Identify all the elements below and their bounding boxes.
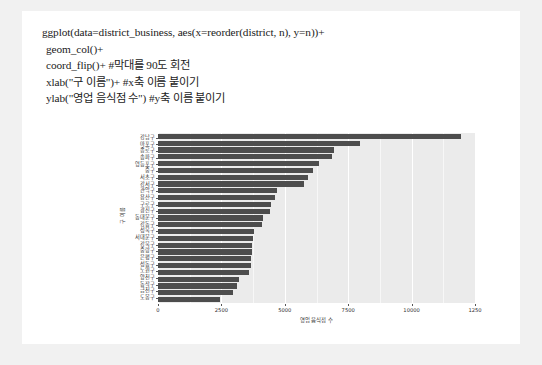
- x-axis-tick: [475, 304, 476, 306]
- bar: [158, 222, 262, 227]
- bar: [158, 283, 237, 288]
- bar: [158, 188, 277, 193]
- y-axis-tick-label: 서대문구: [125, 235, 155, 241]
- bar-row: [158, 243, 475, 248]
- y-axis-tick-label: 은평구: [125, 255, 155, 261]
- code-block: ggplot(data=district_business, aes(x=reo…: [42, 24, 502, 107]
- bar-row: [158, 147, 475, 152]
- bar-row: [158, 161, 475, 166]
- bar-row: [158, 283, 475, 288]
- bar-row: [158, 188, 475, 193]
- bar-row: [158, 175, 475, 180]
- bar-row: [158, 229, 475, 234]
- bar-row: [158, 195, 475, 200]
- bar: [158, 290, 233, 295]
- bar: [158, 243, 252, 248]
- bar-row: [158, 134, 475, 139]
- bar-row: [158, 222, 475, 227]
- code-line-5: ylab("영업 음식점 수") #y축 이름 붙이기: [42, 90, 502, 107]
- bar-row: [158, 215, 475, 220]
- x-axis-tick: [285, 304, 286, 306]
- bar-row: [158, 290, 475, 295]
- bar: [158, 297, 220, 302]
- bar-row: [158, 263, 475, 268]
- bar: [158, 270, 249, 275]
- y-axis-tick-label: 송파구: [125, 155, 155, 161]
- bar-row: [158, 202, 475, 207]
- bar-row: [158, 141, 475, 146]
- code-line-3: coord_flip()+ #막대를 90도 회전: [42, 57, 502, 74]
- bar: [158, 161, 319, 166]
- slide-root: ggplot(data=district_business, aes(x=reo…: [0, 0, 542, 365]
- bar-row: [158, 154, 475, 159]
- x-axis-tick: [412, 304, 413, 306]
- bar-row: [158, 236, 475, 241]
- x-axis-tick-label: 7500: [342, 307, 355, 313]
- bar-series: [158, 133, 475, 303]
- bar-row: [158, 181, 475, 186]
- bar-row: [158, 277, 475, 282]
- bar: [158, 195, 275, 200]
- bar: [158, 263, 251, 268]
- y-axis-tick-label: 양천구: [125, 275, 155, 281]
- bar-row: [158, 249, 475, 254]
- bar: [158, 236, 253, 241]
- x-axis: 0250050007500100001250: [158, 304, 475, 316]
- bar-row: [158, 270, 475, 275]
- bar: [158, 277, 239, 282]
- y-axis-tick-label: 동대문구: [125, 215, 155, 221]
- x-axis-tick: [348, 304, 349, 306]
- bar: [158, 147, 334, 152]
- x-axis-tick-label: 1250: [468, 307, 481, 313]
- content-card: ggplot(data=district_business, aes(x=reo…: [22, 11, 520, 344]
- y-axis-tick-label: 도봉구: [125, 295, 155, 301]
- bar: [158, 154, 332, 159]
- code-line-4: xlab("구 이름")+ #x축 이름 붙이기: [42, 74, 502, 91]
- y-axis-tick-labels: 강남구마포구종로구송파구영등포구중구서초구강서구관악구용산구구로구광진구동대문구…: [125, 135, 155, 301]
- x-axis-tick: [221, 304, 222, 306]
- bar: [158, 249, 252, 254]
- bar: [158, 256, 251, 261]
- bar: [158, 175, 308, 180]
- y-axis-tick-label: 서초구: [125, 175, 155, 181]
- x-axis-tick-label: 2500: [215, 307, 228, 313]
- x-axis-tick-label: 10000: [403, 307, 420, 313]
- code-line-1: ggplot(data=district_business, aes(x=reo…: [42, 24, 502, 41]
- bar: [158, 168, 313, 173]
- x-axis-tick-label: 0: [156, 307, 159, 313]
- plot-panel: [158, 133, 475, 303]
- bar: [158, 209, 270, 214]
- bar-chart: 구 이름 강남구마포구종로구송파구영등포구중구서초구강서구관악구용산구구로구광진…: [117, 129, 477, 334]
- y-axis-title-label: 구 이름: [118, 207, 125, 224]
- bar: [158, 202, 271, 207]
- bar: [158, 229, 254, 234]
- bar: [158, 134, 461, 139]
- bar-row: [158, 297, 475, 302]
- x-axis-tick: [158, 304, 159, 306]
- bar: [158, 141, 360, 146]
- y-axis-tick-label: 용산구: [125, 195, 155, 201]
- bar-row: [158, 168, 475, 173]
- bar-row: [158, 256, 475, 261]
- x-axis-title: 영업 음식점 수: [158, 316, 475, 324]
- bar: [158, 181, 304, 186]
- bar-row: [158, 209, 475, 214]
- bar: [158, 215, 263, 220]
- code-line-2: geom_col()+: [42, 41, 502, 58]
- y-axis-tick-label: 강남구: [125, 135, 155, 141]
- x-axis-tick-label: 5000: [278, 307, 291, 313]
